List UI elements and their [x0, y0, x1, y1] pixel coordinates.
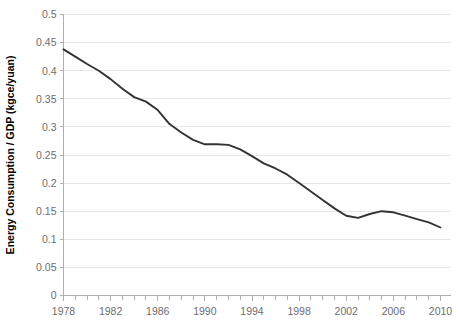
x-axis-minor-ticks: [64, 296, 441, 301]
y-axis-tick-labels: 00.050.10.150.20.250.30.350.40.450.5: [36, 8, 57, 301]
y-axis-tick-label: 0.45: [36, 36, 57, 48]
y-axis-tick-label: 0.05: [36, 261, 57, 273]
gridlines: [64, 15, 451, 268]
series-line-energy-intensity: [64, 49, 441, 227]
y-axis-tick-label: 0.5: [42, 8, 57, 20]
x-axis-tick-label: 2010: [429, 305, 453, 317]
y-axis-tick-label: 0.15: [36, 205, 57, 217]
x-axis-tick-labels: 197819821986199019941998200220062010: [52, 305, 453, 317]
x-axis-tick-label: 1998: [287, 305, 311, 317]
x-axis-tick-label: 1986: [146, 305, 170, 317]
y-axis-tick-label: 0.4: [42, 65, 57, 77]
energy-intensity-line-chart: 00.050.10.150.20.250.30.350.40.450.5 197…: [0, 0, 462, 331]
y-axis-tick-label: 0: [51, 289, 57, 301]
x-axis-tick-label: 1990: [193, 305, 217, 317]
chart-canvas: 00.050.10.150.20.250.30.350.40.450.5 197…: [0, 0, 462, 331]
y-axis-title-text: Energy Consumption / GDP (kgce/yuan): [4, 56, 16, 255]
y-axis-tick-label: 0.25: [36, 149, 57, 161]
y-axis-tick-label: 0.3: [42, 121, 57, 133]
x-axis-tick-label: 2002: [335, 305, 359, 317]
y-axis-line: [60, 15, 64, 296]
y-axis-tick-label: 0.1: [42, 233, 57, 245]
x-axis-tick-label: 1978: [52, 305, 76, 317]
x-axis-tick-label: 1994: [240, 305, 264, 317]
y-axis-title: Energy Consumption / GDP (kgce/yuan): [4, 56, 16, 255]
data-series-line: [64, 49, 441, 227]
y-axis-tick-label: 0.2: [42, 177, 57, 189]
x-axis-tick-label: 1982: [99, 305, 123, 317]
y-axis-tick-label: 0.35: [36, 93, 57, 105]
x-axis-tick-label: 2006: [382, 305, 406, 317]
